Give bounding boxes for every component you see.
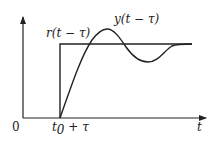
origin-label: 0 — [12, 120, 20, 134]
response-curve — [60, 29, 192, 118]
t-axis-label: t — [197, 120, 202, 134]
reference-step-label: r(t − τ) — [46, 26, 91, 40]
t0-plus-tau-label: t0 + τ — [52, 120, 89, 137]
response-label: y(t − τ) — [113, 12, 160, 26]
step-response-diagram: 0 t0 + τ t r(t − τ) y(t − τ) — [0, 0, 213, 143]
reference-step-line — [60, 44, 192, 118]
